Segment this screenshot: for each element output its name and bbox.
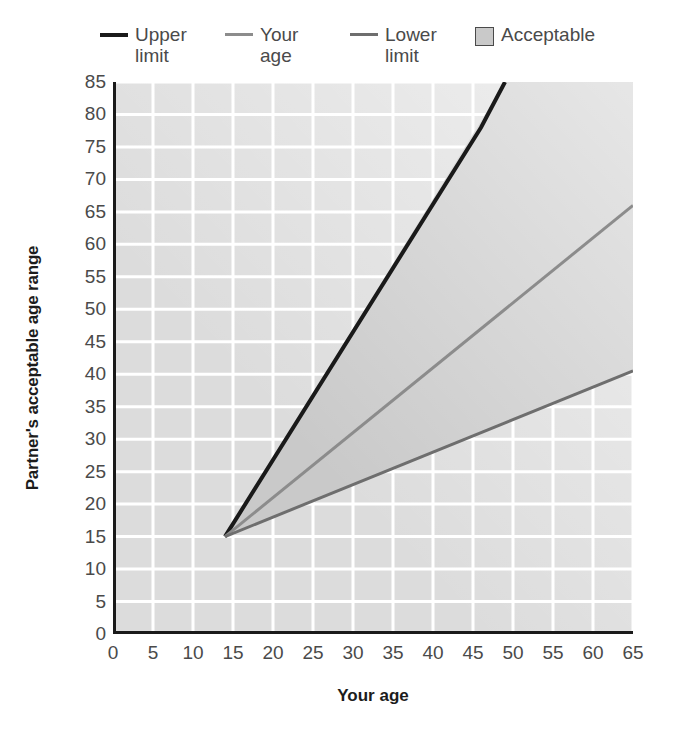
y-tick-label: 5 xyxy=(66,591,106,613)
y-tick-label: 60 xyxy=(66,233,106,255)
y-tick-label: 55 xyxy=(66,266,106,288)
x-tick-label: 45 xyxy=(453,642,493,664)
x-tick-label: 15 xyxy=(213,642,253,664)
y-tick-label: 80 xyxy=(66,103,106,125)
y-tick-label: 25 xyxy=(66,461,106,483)
legend-item-label: Upper limit xyxy=(135,24,205,66)
legend-line-swatch-icon xyxy=(225,33,253,36)
page-bottom-margin xyxy=(0,716,681,736)
y-tick-label: 40 xyxy=(66,363,106,385)
y-tick-label: 15 xyxy=(66,526,106,548)
x-tick-label: 0 xyxy=(93,642,133,664)
legend-line-swatch-icon xyxy=(100,33,128,37)
x-axis-title: Your age xyxy=(113,686,633,706)
chart-legend: Upper limit Your age Lower limit Accepta… xyxy=(100,24,660,74)
chart-svg xyxy=(113,82,633,634)
y-tick-label: 50 xyxy=(66,298,106,320)
legend-item-upper-limit: Upper limit xyxy=(100,24,205,66)
y-tick-label: 65 xyxy=(66,201,106,223)
legend-line-swatch-icon xyxy=(350,33,378,36)
y-tick-label: 70 xyxy=(66,168,106,190)
x-tick-label: 25 xyxy=(293,642,333,664)
x-tick-label: 10 xyxy=(173,642,213,664)
legend-item-label: Lower limit xyxy=(385,24,455,66)
x-tick-label: 20 xyxy=(253,642,293,664)
y-tick-label: 85 xyxy=(66,71,106,93)
y-tick-label: 20 xyxy=(66,493,106,515)
x-tick-label: 65 xyxy=(613,642,653,664)
y-tick-label: 10 xyxy=(66,558,106,580)
acceptable-shaded-region xyxy=(113,82,633,634)
y-tick-label: 35 xyxy=(66,396,106,418)
x-tick-label: 40 xyxy=(413,642,453,664)
legend-item-label: Your age xyxy=(260,24,330,66)
x-tick-label: 60 xyxy=(573,642,613,664)
y-tick-label: 75 xyxy=(66,136,106,158)
y-tick-label: 45 xyxy=(66,331,106,353)
legend-item-lower-limit: Lower limit xyxy=(350,24,455,66)
y-tick-label: 30 xyxy=(66,428,106,450)
legend-item-label: Acceptable xyxy=(501,24,595,45)
legend-item-your-age: Your age xyxy=(225,24,330,66)
legend-item-acceptable: Acceptable xyxy=(475,24,595,46)
x-tick-label: 30 xyxy=(333,642,373,664)
x-tick-label: 50 xyxy=(493,642,533,664)
x-tick-label: 5 xyxy=(133,642,173,664)
x-tick-label: 55 xyxy=(533,642,573,664)
y-axis-title: Partner's acceptable age range xyxy=(23,198,43,538)
plot-area xyxy=(113,82,633,634)
x-tick-label: 35 xyxy=(373,642,413,664)
legend-square-swatch-icon xyxy=(475,27,494,46)
